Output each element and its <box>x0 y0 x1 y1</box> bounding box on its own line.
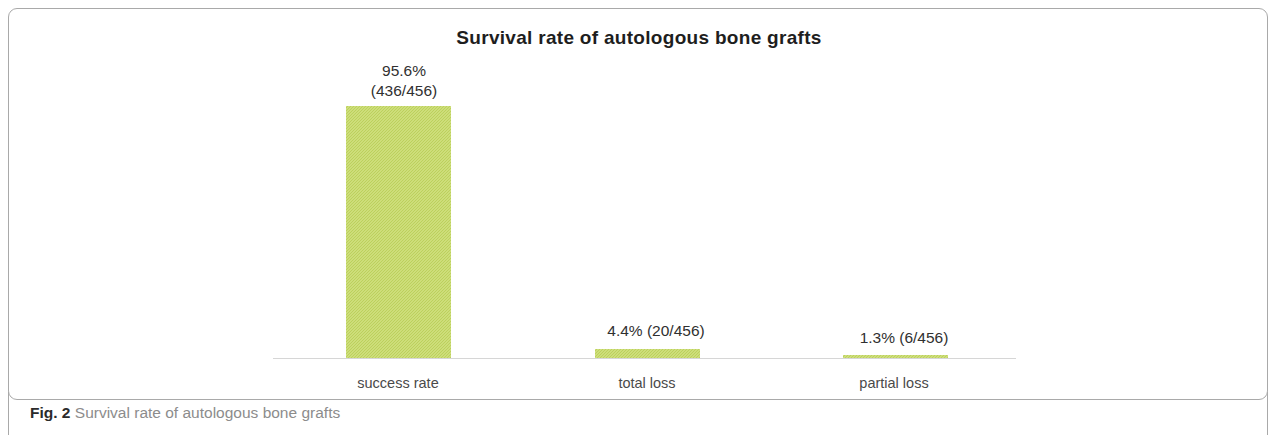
frame-rail-right <box>1267 392 1268 435</box>
frame-rail-left <box>8 392 9 435</box>
category-label-total-loss: total loss <box>557 375 737 391</box>
figure-caption: Fig. 2 Survival rate of autologous bone … <box>30 404 340 422</box>
bar-data-label-line1: 4.4% (20/456) <box>566 321 746 341</box>
chart-title: Survival rate of autologous bone grafts <box>9 27 1269 49</box>
bar-data-label: 95.6% (436/456) <box>314 61 494 101</box>
bar-data-label-line1: 95.6% <box>314 61 494 81</box>
figure-frame: Survival rate of autologous bone grafts … <box>8 8 1268 400</box>
bar-data-label: 1.3% (6/456) <box>814 328 994 348</box>
bar-data-label: 4.4% (20/456) <box>566 321 746 341</box>
category-label-success-rate: success rate <box>308 375 488 391</box>
figure-caption-number: Fig. 2 <box>30 404 70 421</box>
category-label-partial-loss: partial loss <box>804 375 984 391</box>
x-axis-line <box>273 358 1016 359</box>
figure-caption-title: Survival rate of autologous bone grafts <box>75 404 340 421</box>
bar-chart: Survival rate of autologous bone grafts … <box>9 9 1269 401</box>
bar-total-loss[interactable] <box>595 349 700 358</box>
bar-success-rate[interactable] <box>346 106 451 358</box>
bar-data-label-line1: 1.3% (6/456) <box>814 328 994 348</box>
bar-data-label-line2: (436/456) <box>314 81 494 101</box>
